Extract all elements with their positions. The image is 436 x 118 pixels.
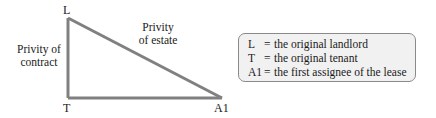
privity-of-estate-label-line2: of estate [133,34,183,47]
legend-box: L = the original landlord T = the origin… [238,33,416,82]
privity-of-contract-label-line2: contract [14,56,64,69]
legend-equals: = [264,51,274,65]
legend-key: T [248,51,264,65]
privity-of-estate-label-line1: Privity [133,21,183,34]
legend-equals: = [264,65,274,79]
vertex-label-tenant: T [63,102,70,114]
privity-of-contract-label: Privity of contract [14,43,64,69]
legend-text: the first assignee of the lease [274,65,407,79]
vertex-label-assignee: A1 [214,102,229,114]
legend-equals: = [264,37,274,51]
legend-key: L [248,37,264,51]
legend-item-assignee: A1 = the first assignee of the lease [248,65,415,79]
legend-text: the original landlord [274,37,368,51]
vertex-label-landlord: L [63,4,70,16]
privity-of-contract-label-line1: Privity of [14,43,64,56]
legend-item-tenant: T = the original tenant [248,51,415,65]
privity-of-estate-label: Privity of estate [133,21,183,47]
legend-key: A1 [248,65,264,79]
privity-diagram: L T A1 Privity of contract Privity of es… [0,0,436,118]
legend-item-landlord: L = the original landlord [248,37,415,51]
legend-text: the original tenant [274,51,358,65]
